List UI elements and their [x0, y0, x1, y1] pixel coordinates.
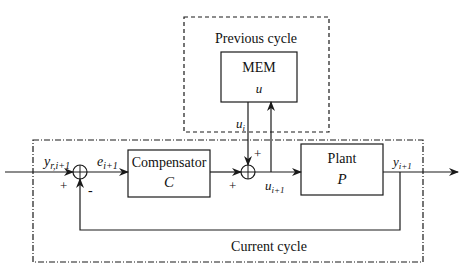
previous-cycle-label: Previous cycle — [215, 31, 297, 46]
reference-signal-label: yr,i+1 — [42, 154, 70, 171]
summing-junction-input — [241, 165, 255, 179]
compensator-block: Compensator C — [128, 150, 210, 197]
summing-junction-error — [73, 165, 87, 179]
compensator-block-name: Compensator — [132, 155, 207, 170]
sum2-left-plus-sign: + — [229, 178, 236, 193]
input-signal-label: ui+1 — [265, 178, 285, 195]
plant-block: Plant P — [301, 144, 383, 195]
signal-lines — [5, 102, 458, 230]
mem-block: MEM u — [221, 52, 297, 102]
mem-block-symbol: u — [256, 81, 263, 96]
block-diagram: Previous cycle Current cycle MEM u Compe… — [0, 0, 465, 280]
error-signal-label: ei+1 — [97, 154, 118, 171]
output-signal-label: yi+1 — [391, 154, 412, 171]
plant-block-name: Plant — [328, 151, 357, 166]
sum2-top-plus-sign: + — [254, 146, 261, 161]
sum1-minus-sign: - — [88, 183, 93, 198]
sum1-plus-sign: + — [60, 178, 67, 193]
compensator-block-symbol: C — [164, 174, 175, 190]
current-cycle-label: Current cycle — [231, 239, 307, 254]
mem-block-name: MEM — [242, 60, 276, 75]
plant-block-symbol: P — [336, 171, 346, 187]
prev-input-signal-label: ui — [236, 116, 246, 133]
